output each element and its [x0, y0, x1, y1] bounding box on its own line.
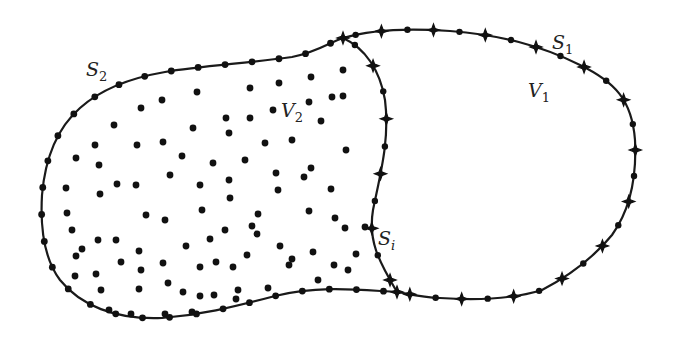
s2-node	[70, 111, 77, 118]
boundary-s1	[343, 30, 635, 299]
label-v2: V2	[281, 99, 303, 125]
s2-node	[195, 64, 202, 71]
interior-point	[270, 107, 277, 114]
interior-point	[95, 237, 102, 244]
interior-point	[92, 142, 99, 149]
interior-point	[162, 311, 169, 318]
interior-point	[162, 217, 169, 224]
interface-si	[343, 38, 397, 292]
interior-point	[343, 147, 350, 154]
interior-point	[199, 207, 206, 214]
interior-point	[63, 185, 70, 192]
si-interface-nodes	[337, 32, 403, 298]
s2-node	[220, 305, 227, 312]
interior-point	[230, 264, 237, 271]
interior-point	[254, 231, 261, 238]
s2-node	[55, 132, 62, 139]
s1-node-star-core	[581, 64, 586, 69]
s1-node-dot	[630, 121, 636, 127]
label-si: Si	[378, 227, 395, 253]
interior-point	[306, 99, 313, 106]
s1-node-star-core	[533, 44, 538, 49]
interior-point	[315, 277, 322, 284]
interior-point	[160, 260, 167, 267]
interior-point	[275, 187, 282, 194]
interior-point	[277, 243, 284, 250]
interior-point	[308, 74, 315, 81]
interior-point	[222, 227, 229, 234]
s2-node	[249, 58, 256, 65]
s2-node	[276, 55, 283, 62]
s1-node-dot	[508, 37, 514, 43]
s1-node-dot	[580, 260, 586, 266]
interior-point	[227, 195, 234, 202]
s1-node-dot	[536, 288, 542, 294]
s2-node	[91, 93, 98, 100]
interior-point	[328, 186, 335, 193]
s2-node	[272, 292, 279, 299]
interior-point	[318, 118, 325, 125]
label-s2: S2	[86, 58, 107, 84]
interior-point	[179, 153, 186, 160]
s2-node	[299, 288, 306, 295]
interior-point	[289, 256, 296, 263]
label-v1: V1	[528, 79, 550, 105]
interior-point	[79, 246, 86, 253]
s1-node-dot	[456, 29, 462, 35]
s2-node	[302, 50, 309, 57]
interior-point	[72, 273, 79, 280]
si-node-star-core	[370, 63, 375, 68]
s1-node-star-core	[633, 147, 638, 152]
interior-point	[223, 115, 230, 122]
interior-point	[128, 311, 135, 318]
interior-point	[138, 105, 145, 112]
interior-point	[340, 93, 347, 100]
s1-boundary-nodes	[352, 24, 641, 305]
domain-diagram: S2 S1 V1 V2 Si	[0, 0, 684, 355]
s2-node	[168, 68, 175, 75]
s1-node-dot	[603, 78, 609, 84]
s2-node	[139, 314, 146, 321]
interior-point	[97, 191, 104, 198]
interior-point	[160, 139, 167, 146]
interior-point	[207, 236, 214, 243]
s2-node	[327, 40, 334, 47]
interior-point	[310, 249, 317, 256]
interior-point	[362, 224, 369, 231]
interior-point	[308, 165, 315, 172]
interior-point	[276, 80, 283, 87]
interior-point	[113, 237, 120, 244]
interior-point	[226, 177, 233, 184]
interior-point	[233, 296, 240, 303]
interior-point	[301, 174, 308, 181]
interior-point	[114, 181, 121, 188]
s1-node-dot	[432, 295, 438, 301]
interior-point	[118, 259, 125, 266]
s1-node-star-core	[459, 296, 464, 301]
s1-node-star-core	[431, 27, 436, 32]
interior-point	[189, 309, 196, 316]
s2-node	[38, 211, 45, 218]
si-node-star-core	[378, 171, 383, 176]
interior-point	[197, 293, 204, 300]
s2-node	[326, 286, 333, 293]
interior-point	[247, 115, 254, 122]
interior-point	[93, 271, 100, 278]
interior-point	[69, 227, 76, 234]
si-junction-bottom-core	[394, 289, 399, 294]
s1-node-star-core	[559, 276, 564, 281]
interior-point	[159, 97, 166, 104]
interior-point	[242, 157, 249, 164]
interior-point	[197, 182, 204, 189]
interior-point	[289, 137, 296, 144]
interior-point	[213, 259, 220, 266]
s1-node-star-core	[407, 292, 412, 297]
interior-point	[136, 248, 143, 255]
s1-node-star-core	[483, 33, 488, 38]
interior-point	[262, 140, 269, 147]
v2-interior-points	[63, 67, 369, 318]
s1-node-dot	[631, 173, 637, 179]
s2-node	[116, 81, 123, 88]
s2-node	[39, 184, 46, 191]
s2-node	[41, 238, 48, 245]
